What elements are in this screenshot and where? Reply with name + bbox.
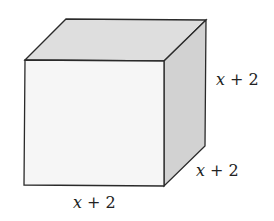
cube-front-face	[24, 60, 164, 186]
depth-label: x + 2	[196, 161, 239, 180]
cube-diagram	[0, 0, 274, 221]
height-label: x + 2	[216, 70, 259, 89]
width-label: x + 2	[73, 193, 116, 212]
